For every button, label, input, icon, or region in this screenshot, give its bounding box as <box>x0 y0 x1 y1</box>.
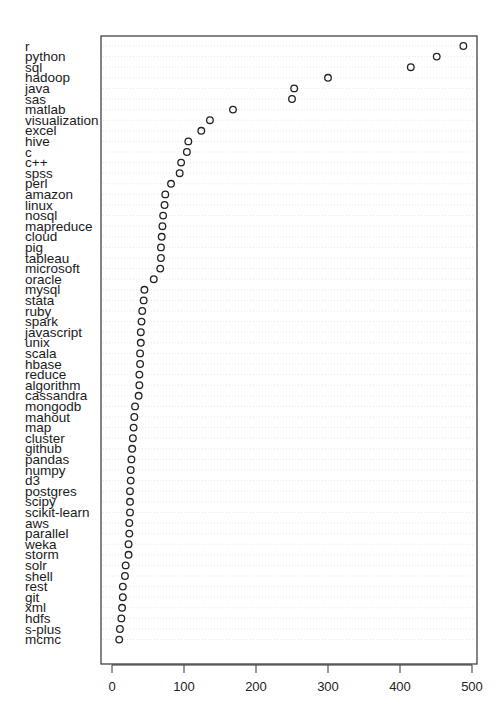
data-point <box>162 191 169 198</box>
x-tick-label: 500 <box>461 679 483 694</box>
data-point <box>291 85 298 92</box>
x-tick-label: 400 <box>389 679 411 694</box>
category-labels: rpythonsqlhadoopjavasasmatlabvisualizati… <box>24 39 99 648</box>
data-point <box>120 583 127 590</box>
row-guides <box>103 46 475 640</box>
data-point <box>120 594 127 601</box>
data-point <box>129 446 136 453</box>
x-tick-label: 100 <box>173 679 195 694</box>
data-point <box>408 64 415 71</box>
data-point <box>207 117 214 124</box>
data-point <box>117 626 124 633</box>
data-point <box>138 340 145 347</box>
data-point <box>132 403 139 410</box>
x-tick-label: 200 <box>245 679 267 694</box>
data-points <box>116 43 467 643</box>
data-point <box>126 520 133 527</box>
plot-frame <box>101 36 477 664</box>
x-tick-label: 300 <box>317 679 339 694</box>
x-tick-label: 0 <box>108 679 115 694</box>
data-point <box>126 530 133 537</box>
data-point <box>198 128 205 135</box>
dotchart: rpythonsqlhadoopjavasasmatlabvisualizati… <box>0 0 503 728</box>
data-point <box>138 329 145 336</box>
data-point <box>168 181 175 188</box>
category-label: mcmc <box>25 632 61 647</box>
x-axis: 0100200300400500 <box>108 665 482 694</box>
